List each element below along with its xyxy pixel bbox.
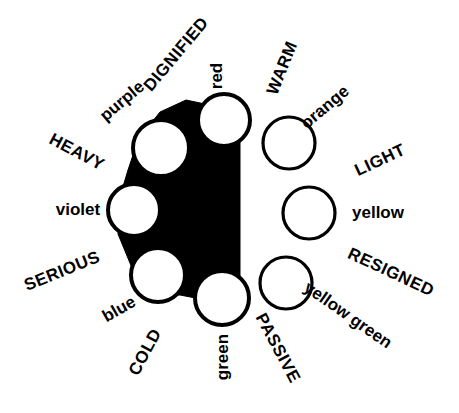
- color-wheel-figure: redorangeyellowyellow greengreenblueviol…: [0, 0, 459, 413]
- hue-label-yellow: yellow: [352, 204, 404, 221]
- hue-circle-yellow[interactable]: [283, 187, 335, 239]
- hue-label-violet: violet: [56, 201, 100, 218]
- hue-circle-purple[interactable]: [133, 120, 189, 176]
- hue-circle-blue[interactable]: [131, 248, 185, 302]
- hue-circle-green[interactable]: [195, 271, 249, 325]
- hue-label-red: red: [208, 63, 225, 89]
- hue-circle-yellow-green[interactable]: [260, 257, 312, 309]
- hue-circle-red[interactable]: [198, 94, 250, 146]
- hue-label-green: green: [214, 334, 231, 380]
- hue-circle-violet[interactable]: [108, 184, 160, 236]
